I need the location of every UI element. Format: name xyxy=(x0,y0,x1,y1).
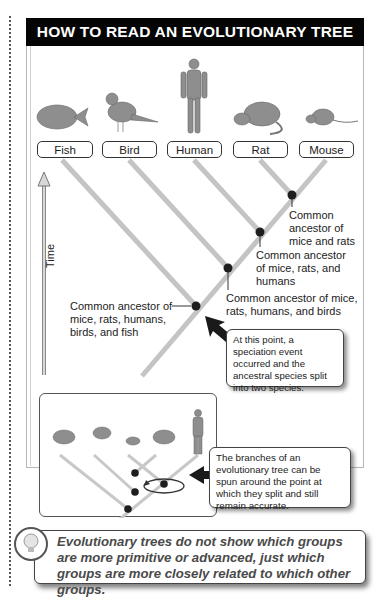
inset-node-4 xyxy=(124,505,132,513)
branch-rat xyxy=(260,160,292,195)
rat-icon xyxy=(234,102,282,134)
inset-human-icon xyxy=(193,410,203,455)
inset-rat-icon xyxy=(153,430,175,444)
inset-node-3 xyxy=(131,488,139,496)
node-mice-rats-humans xyxy=(256,228,265,237)
node-label-mice-rats: Commonancestor ofmice and rats xyxy=(289,209,355,248)
node-all xyxy=(192,302,201,311)
rotation-inset xyxy=(39,393,217,517)
mouse-icon xyxy=(306,109,358,125)
human-icon xyxy=(181,59,207,133)
taxon-label-fish: Fish xyxy=(37,141,93,158)
inset-fish-icon xyxy=(53,430,75,444)
lightbulb-icon xyxy=(14,527,48,561)
speciation-callout: At this point, a speciation event occurr… xyxy=(226,329,344,387)
inset-bird-icon xyxy=(93,427,111,439)
branch-fish xyxy=(62,160,196,306)
time-axis-label: Time xyxy=(44,244,56,268)
taxon-label-human: Human xyxy=(167,141,222,158)
taxon-label-bird: Bird xyxy=(102,141,157,158)
inset-node-1 xyxy=(131,469,139,477)
node-label-mice-rats-humans: Common ancestorof mice, rats, andhumans xyxy=(256,249,346,288)
tip-note: Evolutionary trees do not show which gro… xyxy=(34,530,366,584)
inset-mouse-icon xyxy=(126,437,140,445)
node-mice-rats xyxy=(288,191,297,200)
taxon-label-mouse: Mouse xyxy=(299,141,354,158)
inset-node-2 xyxy=(160,480,168,488)
rotation-callout: The branches of an evolutionary tree can… xyxy=(209,447,351,508)
branch-human xyxy=(194,160,260,232)
node-mice-rats-humans-birds xyxy=(224,264,233,273)
taxon-label-rat: Rat xyxy=(233,141,288,158)
bird-icon xyxy=(106,93,158,132)
fish-icon xyxy=(37,105,88,129)
inset-tree-graphic xyxy=(40,394,218,518)
node-label-all: Common ancestor ofmice, rats, humans,bir… xyxy=(70,300,172,339)
node-label-mice-rats-humans-birds: Common ancestor of mice,rats, humans, an… xyxy=(226,292,357,318)
time-axis-arrow xyxy=(38,172,50,375)
